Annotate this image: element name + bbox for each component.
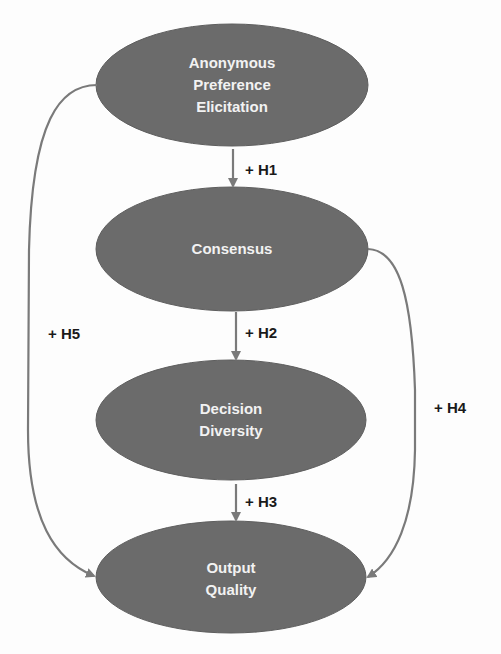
edge-label-h1: + H1 bbox=[245, 161, 277, 179]
edge-label-h4: + H4 bbox=[434, 399, 466, 417]
node-label-line: Diversity bbox=[101, 420, 361, 442]
node-label-consensus: Consensus bbox=[102, 238, 362, 260]
node-label-line: Quality bbox=[101, 579, 361, 601]
node-label-anonymous-preference-elicitation: Anonymous Preference Elicitation bbox=[102, 52, 362, 118]
edge-label-h3: + H3 bbox=[245, 493, 277, 511]
node-label-line: Preference bbox=[102, 74, 362, 96]
node-label-decision-diversity: Decision Diversity bbox=[101, 398, 361, 442]
edge-label-h5: + H5 bbox=[48, 325, 80, 343]
node-label-line: Anonymous bbox=[102, 52, 362, 74]
edge-h4-arrow bbox=[368, 249, 415, 577]
edge-label-h2: + H2 bbox=[245, 324, 277, 342]
node-label-line: Consensus bbox=[102, 238, 362, 260]
node-label-line: Decision bbox=[101, 398, 361, 420]
node-label-output-quality: Output Quality bbox=[101, 557, 361, 601]
diagram-canvas: Anonymous Preference Elicitation Consens… bbox=[0, 0, 501, 654]
node-label-line: Output bbox=[101, 557, 361, 579]
node-label-line: Elicitation bbox=[102, 96, 362, 118]
